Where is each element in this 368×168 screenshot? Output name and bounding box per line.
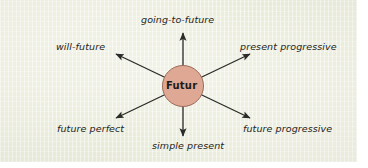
node-label-will-future: will-future <box>56 41 105 52</box>
node-label-future-progressive: future progressive <box>243 123 332 134</box>
node-label-simple-present: simple present <box>152 140 224 151</box>
node-label-going-to-future: going-to-future <box>141 14 214 25</box>
center-node-label: Futur <box>166 80 197 91</box>
node-label-present-progressive: present progressive <box>240 41 337 52</box>
node-label-future-perfect: future perfect <box>57 123 124 134</box>
figure-root: Futur going-to-future will-future presen… <box>0 0 368 168</box>
